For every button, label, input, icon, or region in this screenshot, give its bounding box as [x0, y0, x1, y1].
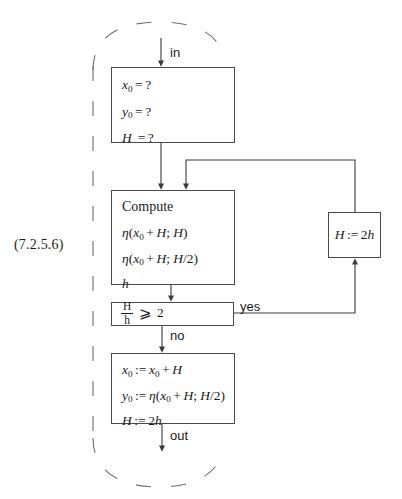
decision-denominator: h	[121, 314, 133, 326]
flowchart-figure: (7.2.5.6) x0=? y0=? H =? Compute η(x0+H;…	[0, 0, 402, 499]
update-line-2: y0:=η(x0+H; H/2)	[122, 389, 234, 403]
edge-label-no: no	[170, 328, 184, 343]
update-line-1: x0:=x0+H	[122, 363, 234, 377]
halve-expression: H:=2h	[335, 228, 375, 242]
decision-expression: H h ⩾ 2	[121, 301, 233, 326]
equation-label: (7.2.5.6)	[14, 237, 64, 253]
edge-label-out: out	[170, 428, 188, 443]
node-step-reset: H:=2h	[328, 212, 381, 258]
decision-numerator: H	[121, 300, 133, 313]
edge-label-yes: yes	[240, 299, 260, 314]
node-compute: Compute η(x0+H; H) η(x0+H; H/2) h	[111, 190, 235, 285]
dashed-boundary-arc-top	[93, 22, 222, 70]
edge-label-in: in	[170, 45, 180, 60]
init-line-1: x0=?	[122, 78, 234, 92]
update-line-3: H:=2h	[122, 414, 234, 428]
init-line-3: H =?	[122, 131, 234, 145]
node-initialisation: x0=? y0=? H =?	[111, 67, 235, 143]
init-line-2: y0=?	[122, 105, 234, 119]
node-update: x0:=x0+H y0:=η(x0+H; H/2) H:=2h	[111, 353, 235, 424]
compute-line-1: η(x0+H; H)	[122, 226, 234, 240]
decision-threshold: 2	[157, 305, 164, 320]
node-decision: H h ⩾ 2	[111, 302, 234, 326]
compute-line-2: η(x0+H; H/2)	[122, 252, 234, 266]
compute-heading: Compute	[122, 200, 234, 214]
decision-fraction: H h	[121, 300, 133, 325]
dashed-boundary-arc-bottom	[93, 438, 221, 487]
compute-line-3: h	[122, 277, 234, 291]
greater-equal-icon: ⩾	[137, 305, 154, 321]
